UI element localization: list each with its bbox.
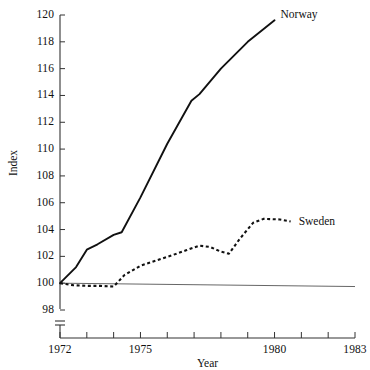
y-tick-label: 112 xyxy=(20,117,54,129)
series-line-sweden xyxy=(60,219,291,287)
y-tick-label: 116 xyxy=(20,63,54,75)
y-axis-title: Index xyxy=(7,149,19,175)
y-tick-label: 108 xyxy=(20,170,54,182)
y-tick-label: 114 xyxy=(20,90,54,102)
series-label-sweden: Sweden xyxy=(299,215,335,227)
series-line-norway xyxy=(60,20,275,283)
y-tick-label: 104 xyxy=(20,224,54,236)
y-tick-label: 102 xyxy=(20,251,54,263)
y-tick-label: 106 xyxy=(20,197,54,209)
x-tick-label: 1983 xyxy=(343,344,366,356)
x-axis-title: Year xyxy=(197,357,218,369)
x-tick-label: 1972 xyxy=(48,344,71,356)
x-tick-label: 1975 xyxy=(129,344,152,356)
reference-line-100 xyxy=(60,283,355,286)
y-tick-label: 120 xyxy=(20,9,54,21)
series-label-norway: Norway xyxy=(281,8,318,20)
y-tick-label: 110 xyxy=(20,143,54,155)
chart-canvas xyxy=(0,0,370,370)
line-chart: Index Year 98100102104106108110112114116… xyxy=(0,0,370,370)
y-tick-label: 98 xyxy=(20,304,54,316)
y-tick-label: 118 xyxy=(20,36,54,48)
x-tick-label: 1980 xyxy=(263,344,286,356)
y-tick-label: 100 xyxy=(20,277,54,289)
